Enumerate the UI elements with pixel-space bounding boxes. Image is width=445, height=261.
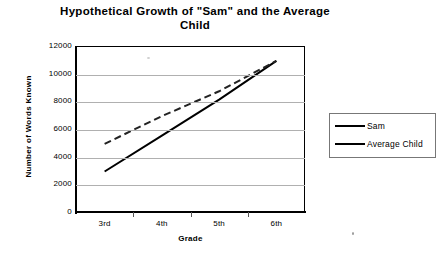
x-axis-tick-mark <box>191 212 192 217</box>
plot-area <box>76 46 305 212</box>
chart-container: Hypothetical Growth of "Sam" and the Ave… <box>0 0 445 261</box>
gridline <box>76 158 305 159</box>
legend-label-average-child: Average Child <box>367 139 423 149</box>
y-axis-tick-label: 4000 <box>32 153 72 161</box>
gridline <box>76 102 305 103</box>
x-axis-tick-label: 5th <box>189 219 249 228</box>
chart-legend: Sam Average Child <box>329 113 436 158</box>
gridline <box>76 75 305 76</box>
legend-marker-square-icon <box>335 120 365 132</box>
y-axis-tick-label: 10000 <box>32 70 72 78</box>
x-axis-tick-label: 4th <box>132 219 192 228</box>
scan-speck <box>352 232 354 235</box>
legend-label-sam: Sam <box>367 121 385 131</box>
legend-item-average-child: Average Child <box>335 137 423 151</box>
y-axis-tick-label: 0 <box>32 208 72 216</box>
series-line-sam <box>105 61 277 172</box>
scan-speck <box>147 57 150 59</box>
x-axis-tick-label: 3rd <box>75 219 135 228</box>
chart-title-line-2: Child <box>180 19 210 31</box>
gridline <box>76 185 305 186</box>
y-axis-tick-label: 12000 <box>32 42 72 50</box>
y-axis-tick-label: 2000 <box>32 180 72 188</box>
legend-marker-diamond-icon <box>335 138 365 150</box>
x-axis-tick-mark <box>133 212 134 217</box>
y-axis-tick-labels: 120001000080006000400020000 <box>28 0 72 261</box>
x-axis-title: Grade <box>76 234 305 243</box>
legend-item-sam: Sam <box>335 119 385 133</box>
y-axis-tick-label: 6000 <box>32 125 72 133</box>
chart-title-line-1: Hypothetical Growth of "Sam" and the Ave… <box>60 5 330 17</box>
chart-title: Hypothetical Growth of "Sam" and the Ave… <box>30 4 360 32</box>
x-axis-tick-mark <box>248 212 249 217</box>
y-axis-tick-label: 8000 <box>32 97 72 105</box>
x-axis-tick-label: 6th <box>246 219 306 228</box>
gridline <box>76 130 305 131</box>
